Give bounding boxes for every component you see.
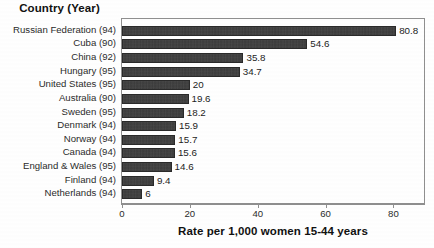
bar <box>122 121 176 131</box>
category-label: United States (95) <box>0 78 118 89</box>
bar-row: 34.7 <box>122 67 424 77</box>
bar-row: 35.8 <box>122 53 424 63</box>
bar <box>122 135 175 145</box>
x-tick-label: 0 <box>119 208 124 219</box>
category-label: Canada (94) <box>0 146 118 157</box>
bar <box>122 67 240 77</box>
bar <box>122 26 396 36</box>
bar-chart-figure: Country (Year) Russian Federation (94)Cu… <box>0 0 434 248</box>
bar-value-label: 19.6 <box>189 93 211 104</box>
bar-row: 9.4 <box>122 176 424 186</box>
category-label: Norway (94) <box>0 133 118 144</box>
bar-row: 80.8 <box>122 26 424 36</box>
bar <box>122 189 142 199</box>
bar-row: 6 <box>122 189 424 199</box>
bar <box>122 176 154 186</box>
bar-value-label: 6 <box>142 188 150 199</box>
bar <box>122 94 189 104</box>
category-label: Australia (90) <box>0 92 118 103</box>
category-label: Denmark (94) <box>0 119 118 130</box>
category-label: Russian Federation (94) <box>0 24 118 35</box>
bars-layer: 80.854.635.834.72019.618.215.915.715.614… <box>122 19 424 203</box>
bar-row: 15.6 <box>122 148 424 158</box>
bar <box>122 108 184 118</box>
bar-value-label: 35.8 <box>243 52 265 63</box>
category-label-column: Russian Federation (94)Cuba (90)China (9… <box>0 18 118 204</box>
bar-value-label: 15.6 <box>175 147 197 158</box>
bar <box>122 80 190 90</box>
bar-value-label: 34.7 <box>240 66 262 77</box>
x-tick-label: 60 <box>320 208 331 219</box>
bar-row: 54.6 <box>122 39 424 49</box>
bar-value-label: 14.6 <box>172 161 194 172</box>
x-tick-label: 20 <box>185 208 196 219</box>
y-axis-header: Country (Year) <box>0 2 119 14</box>
x-axis-title: Rate per 1,000 women 15-44 years <box>121 225 425 237</box>
category-label: Cuba (90) <box>0 37 118 48</box>
category-label: England & Wales (95) <box>0 160 118 171</box>
x-tick-label: 40 <box>252 208 263 219</box>
bar-value-label: 15.7 <box>175 134 197 145</box>
bar-row: 15.7 <box>122 135 424 145</box>
bar-value-label: 54.6 <box>307 38 329 49</box>
bar-row: 18.2 <box>122 108 424 118</box>
category-label: Finland (94) <box>0 174 118 185</box>
bar-row: 14.6 <box>122 162 424 172</box>
category-label: Hungary (95) <box>0 65 118 76</box>
bar-value-label: 9.4 <box>154 175 171 186</box>
bar <box>122 39 307 49</box>
bar-value-label: 20 <box>190 79 204 90</box>
bar-row: 19.6 <box>122 94 424 104</box>
category-label: Netherlands (94) <box>0 187 118 198</box>
bar <box>122 53 243 63</box>
bar-value-label: 18.2 <box>184 107 206 118</box>
category-label: Sweden (95) <box>0 106 118 117</box>
bar-row: 15.9 <box>122 121 424 131</box>
bar-value-label: 80.8 <box>396 25 418 36</box>
bar-value-label: 15.9 <box>176 120 198 131</box>
category-label: China (92) <box>0 51 118 62</box>
x-tick-label: 80 <box>388 208 399 219</box>
bar-row: 20 <box>122 80 424 90</box>
x-axis-line <box>121 204 425 205</box>
bar <box>122 162 172 172</box>
bar <box>122 148 175 158</box>
